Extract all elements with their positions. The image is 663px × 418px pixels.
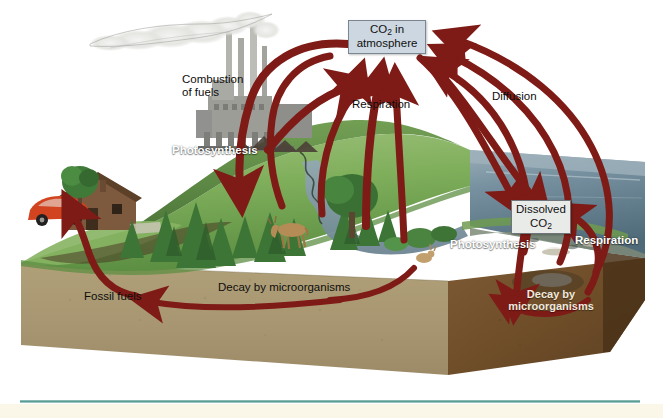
label-respiration-land: Respiration — [352, 98, 410, 111]
dissolved-box-line1: Dissolved — [516, 203, 566, 217]
footer-band — [0, 404, 663, 418]
arrow-respiration-3 — [396, 90, 404, 240]
label-respiration-ocean: Respiration — [575, 234, 638, 247]
dissolved-co2-box[interactable]: Dissolved CO2 — [511, 200, 571, 234]
label-photosynthesis-ocean: Photosynthesis — [450, 238, 536, 251]
co2-box-line1: CO2 in — [370, 23, 404, 37]
co2-box-line2: atmosphere — [357, 37, 418, 51]
dissolved-box-line2: CO2 — [530, 217, 552, 231]
label-combustion-of-fuels: Combustion of fuels — [182, 73, 243, 99]
figure-canvas: CO2 in atmosphere Dissolved CO2 Combusti… — [0, 0, 663, 418]
footer-divider-rule — [20, 400, 640, 403]
label-diffusion: Diffusion — [492, 90, 537, 103]
co2-atmosphere-box[interactable]: CO2 in atmosphere — [348, 20, 426, 54]
label-photosynthesis-land: Photosynthesis — [172, 144, 258, 157]
label-decay-by-microorganisms-land: Decay by microorganisms — [218, 281, 350, 294]
label-fossil-fuels: Fossil fuels — [84, 290, 142, 303]
label-decay-by-microorganisms-ocean: Decay by microorganisms — [496, 288, 606, 313]
